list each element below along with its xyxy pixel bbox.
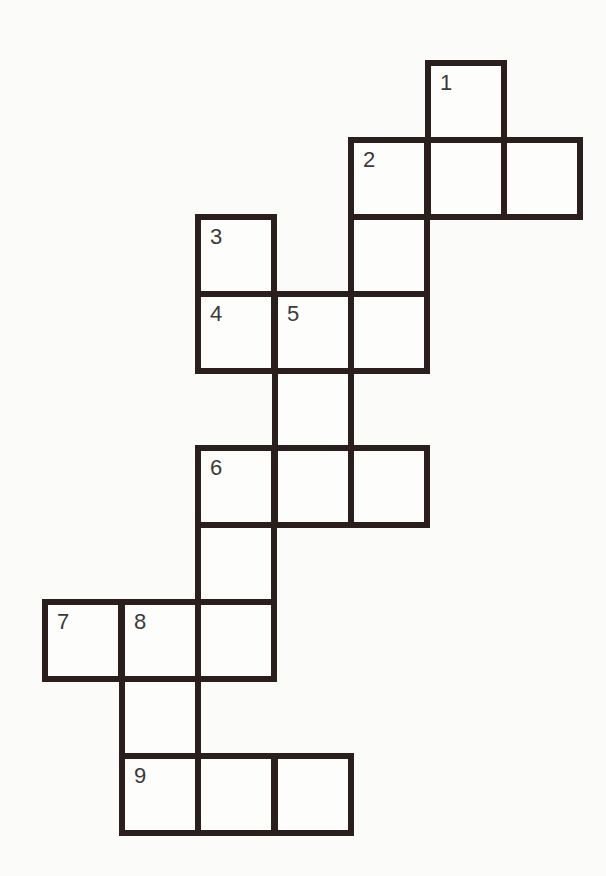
crossword-cell-9[interactable]: 9 bbox=[119, 753, 201, 836]
crossword-cell-7[interactable]: 7 bbox=[42, 599, 124, 682]
clue-number: 5 bbox=[287, 303, 299, 325]
crossword-cell-5[interactable]: 5 bbox=[272, 291, 354, 374]
crossword-cell-4[interactable]: 4 bbox=[195, 291, 277, 374]
crossword-cell[interactable] bbox=[272, 368, 354, 451]
clue-number: 7 bbox=[57, 611, 69, 633]
crossword-cell-8[interactable]: 8 bbox=[119, 599, 201, 682]
clue-number: 2 bbox=[363, 149, 375, 171]
clue-number: 3 bbox=[210, 226, 222, 248]
crossword-cell[interactable] bbox=[501, 137, 583, 220]
crossword-grid: 123456789 bbox=[0, 0, 606, 876]
crossword-cell[interactable] bbox=[348, 214, 430, 297]
crossword-cell[interactable] bbox=[272, 445, 354, 528]
crossword-cell-3[interactable]: 3 bbox=[195, 214, 277, 297]
crossword-cell[interactable] bbox=[195, 753, 277, 836]
clue-number: 8 bbox=[134, 611, 146, 633]
crossword-cell[interactable] bbox=[425, 137, 507, 220]
clue-number: 9 bbox=[134, 765, 146, 787]
clue-number: 4 bbox=[210, 303, 222, 325]
clue-number: 1 bbox=[440, 72, 452, 94]
crossword-cell[interactable] bbox=[348, 445, 430, 528]
crossword-cell[interactable] bbox=[119, 676, 201, 759]
crossword-cell[interactable] bbox=[195, 522, 277, 605]
crossword-cell[interactable] bbox=[195, 599, 277, 682]
crossword-cell-2[interactable]: 2 bbox=[348, 137, 430, 220]
clue-number: 6 bbox=[210, 457, 222, 479]
crossword-cell[interactable] bbox=[348, 291, 430, 374]
crossword-cell[interactable] bbox=[272, 753, 354, 836]
crossword-cell-6[interactable]: 6 bbox=[195, 445, 277, 528]
crossword-cell-1[interactable]: 1 bbox=[425, 60, 507, 143]
